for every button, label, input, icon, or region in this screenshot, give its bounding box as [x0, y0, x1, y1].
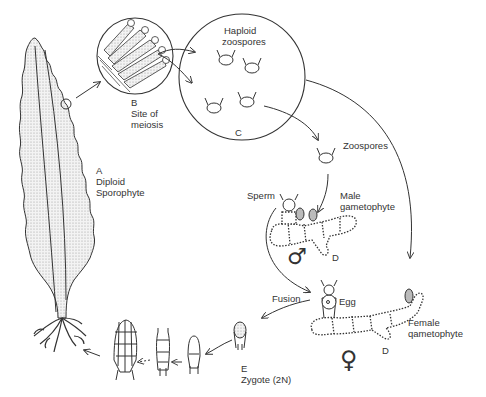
arrow-stage2-to-stage1	[138, 360, 150, 362]
holdfast	[34, 318, 86, 352]
young-sporophyte-stage-2	[157, 328, 170, 376]
label-sporophyte-line2: Sporophyte	[96, 187, 145, 198]
label-sporophyte-line1: Diploid	[96, 176, 125, 187]
arrow-to-sporophyte	[84, 350, 100, 356]
young-sporophyte-stage-3	[188, 336, 200, 374]
label-sporophyte-letter: A	[96, 165, 102, 176]
kelp-life-cycle-diagram: A Diploid Sporophyte B Site of meiosis H…	[0, 0, 486, 397]
arrow-c-to-zoospores	[264, 106, 318, 140]
label-female-line2: qametophyte	[408, 328, 463, 339]
label-female-letter: D	[382, 345, 389, 356]
label-zygote-letter: E	[241, 363, 247, 374]
label-meiosis-line2: meiosis	[131, 119, 163, 130]
label-male-letter: D	[332, 252, 339, 263]
label-zygote-line1: Zygote (2N)	[241, 374, 291, 385]
label-haploid-line1: Haploid	[224, 25, 256, 36]
label-zoospores: Zoospores	[343, 140, 388, 151]
oogonium	[405, 289, 413, 303]
label-meiosis-line1: Site of	[131, 108, 158, 119]
sperm-cell	[280, 194, 298, 211]
egg-cell	[321, 280, 337, 318]
label-fusion: Fusion	[272, 293, 301, 304]
arrow-to-male	[318, 174, 328, 212]
sporophyte-blade	[19, 38, 94, 318]
label-haploid-letter: C	[235, 127, 242, 138]
label-haploid-line2: zoospores	[222, 36, 266, 47]
label-male-line2: gametophyte	[340, 201, 395, 212]
zoospore-cells	[205, 50, 261, 113]
young-sporophyte-stage-1	[114, 320, 137, 380]
label-male-line1: Male	[340, 190, 361, 201]
label-sperm: Sperm	[247, 190, 275, 201]
male-symbol-icon: ♂	[287, 244, 307, 269]
antheridia	[296, 208, 317, 221]
label-egg: Egg	[339, 296, 356, 307]
zoospore-single	[317, 148, 335, 163]
label-female-line1: Female	[408, 317, 440, 328]
arrow-a-to-b	[76, 82, 100, 98]
label-meiosis-letter: B	[131, 97, 137, 108]
arrow-zygote-to-stage3	[206, 340, 232, 354]
female-symbol-icon: ♀	[340, 346, 358, 374]
zygote	[234, 322, 246, 350]
